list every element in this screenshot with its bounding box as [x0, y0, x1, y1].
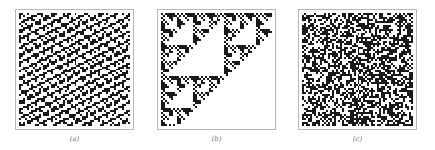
nested-fractal-image — [161, 13, 272, 126]
panel-a-periodic-pattern — [15, 9, 134, 130]
random-pattern-image — [302, 13, 413, 126]
caption-b: (b) — [157, 135, 276, 143]
panel-c-random-pattern — [298, 9, 417, 130]
caption-c: (c) — [298, 135, 417, 143]
periodic-pattern-image — [19, 13, 130, 126]
caption-a: (a) — [15, 135, 134, 143]
panel-b-nested-fractal — [157, 9, 276, 130]
